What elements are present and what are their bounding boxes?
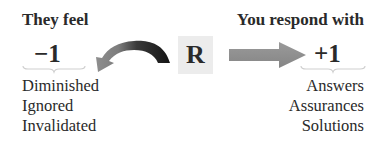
left-list-item: Invalidated: [22, 116, 99, 136]
left-list-item: Diminished: [22, 76, 99, 96]
curved-back-arrow-icon: [84, 38, 174, 74]
left-brace-icon: [22, 64, 86, 74]
right-brace-icon: [300, 64, 366, 74]
right-arrow-icon: [229, 42, 307, 68]
right-list-item: Assurances: [289, 96, 364, 116]
left-list: Diminished Ignored Invalidated: [22, 76, 99, 136]
right-list: Answers Assurances Solutions: [289, 76, 364, 136]
right-list-item: Answers: [289, 76, 364, 96]
r-box: R: [178, 36, 213, 74]
left-heading: They feel: [22, 10, 89, 30]
right-list-item: Solutions: [289, 116, 364, 136]
left-list-item: Ignored: [22, 96, 99, 116]
right-heading: You respond with: [237, 10, 364, 30]
